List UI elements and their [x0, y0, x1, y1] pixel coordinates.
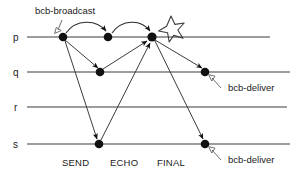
- bcb-broadcast-label: bcb-broadcast: [35, 5, 96, 16]
- phase-labels: SEND ECHO FINAL: [62, 157, 185, 168]
- msg-q-echo-to-p-final: [103, 41, 147, 69]
- msg-p-send-to-q-echo: [65, 40, 98, 68]
- process-label-s: s: [13, 139, 18, 150]
- phase-label-send: SEND: [62, 157, 89, 168]
- node-s-send[interactable]: [95, 140, 104, 149]
- msg-p-final-to-s-deliver: [155, 41, 203, 139]
- msg-s-send-to-p-final: [101, 43, 150, 140]
- pointer-bcb-deliver-s: [209, 147, 221, 160]
- pointer-bcb-broadcast: [55, 20, 62, 33]
- annotation-pointers: [55, 20, 221, 160]
- msg-p-send-to-s-send: [65, 41, 97, 139]
- msg-p-final-to-q-deliver: [155, 40, 202, 68]
- bcb-deliver-label-s: bcb-deliver: [228, 154, 274, 165]
- message-sequence-diagram: p q r s: [0, 0, 301, 179]
- node-q-echo[interactable]: [96, 68, 105, 77]
- phase-label-echo: ECHO: [110, 157, 138, 168]
- process-label-p: p: [13, 32, 19, 43]
- arc-p-echo-to-final: [112, 22, 150, 33]
- burst-star-icon: [159, 16, 185, 42]
- node-s-deliver[interactable]: [201, 140, 210, 149]
- diagram-canvas: p q r s: [0, 0, 301, 179]
- arc-p-send-to-echo: [66, 22, 106, 33]
- node-p-echo[interactable]: [104, 33, 113, 42]
- phase-label-final: FINAL: [157, 157, 185, 168]
- process-labels: p q r s: [13, 32, 19, 150]
- pointer-bcb-deliver-q: [209, 75, 221, 88]
- bcb-deliver-label-q: bcb-deliver: [228, 82, 274, 93]
- self-arcs: [66, 22, 150, 33]
- process-label-q: q: [13, 67, 19, 78]
- node-q-deliver[interactable]: [201, 68, 210, 77]
- annotation-labels: bcb-broadcast bcb-deliver bcb-deliver: [35, 5, 274, 165]
- node-p-send[interactable]: [59, 33, 68, 42]
- process-label-r: r: [14, 102, 18, 113]
- node-p-final[interactable]: [147, 32, 156, 41]
- message-arrows: [65, 40, 203, 140]
